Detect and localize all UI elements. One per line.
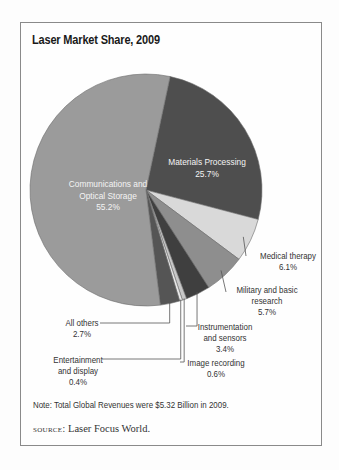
label-all-others: All others 2.7%: [56, 318, 109, 340]
source-text: Laser Focus World.: [68, 423, 150, 434]
label-entertainment: Entertainment and display 0.4%: [43, 355, 113, 388]
label-instrumentation: Instrumentation and sensors 3.4%: [190, 322, 260, 355]
chart-source: source: Laser Focus World.: [33, 423, 150, 434]
label-materials: Materials Processing 25.7%: [163, 156, 251, 179]
label-image-recording: Image recording 0.6%: [181, 358, 251, 380]
label-communications: Communications and Optical Storage 55.2%: [55, 178, 161, 213]
label-medical: Medical therapy 6.1%: [253, 251, 323, 273]
leader-line: [102, 300, 181, 359]
label-military: Military and basic research 5.7%: [227, 285, 306, 318]
source-label: source:: [33, 424, 65, 434]
chart-note: Note: Total Global Revenues were $5.32 B…: [33, 400, 229, 410]
